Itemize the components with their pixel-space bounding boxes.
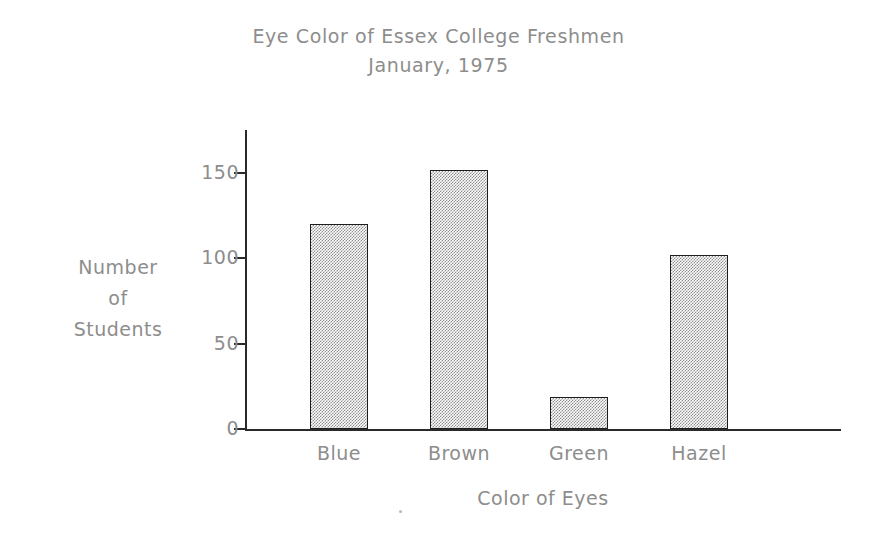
bar-hazel — [670, 255, 728, 429]
x-axis-line — [245, 429, 841, 431]
x-axis-label-blue: Blue — [317, 442, 361, 464]
x-axis-label-hazel: Hazel — [671, 442, 726, 464]
x-axis-label-green: Green — [549, 442, 609, 464]
chart-title-block: Eye Color of Essex College Freshmen Janu… — [0, 22, 877, 81]
y-axis-title-line-1: Number — [48, 252, 188, 283]
bar-green — [550, 397, 608, 429]
y-axis-tick-label: 0 — [226, 417, 239, 439]
y-axis-title-line-2: of — [48, 283, 188, 314]
y-axis-tick-label: 100 — [201, 246, 239, 268]
bar-blue — [310, 224, 368, 429]
y-axis-title: Number of Students — [48, 252, 188, 344]
bar-brown — [430, 170, 488, 429]
y-axis-line — [245, 130, 247, 430]
x-axis-title: Color of Eyes — [245, 487, 841, 509]
bar-chart: Eye Color of Essex College Freshmen Janu… — [0, 0, 877, 550]
chart-title: Eye Color of Essex College Freshmen — [0, 22, 877, 51]
scan-artifact-speck — [399, 510, 402, 513]
plot-area: 050100150 BlueBrownGreenHazel — [245, 130, 841, 430]
x-axis-label-brown: Brown — [428, 442, 490, 464]
y-axis-tick-label: 150 — [201, 161, 239, 183]
chart-subtitle: January, 1975 — [0, 51, 877, 80]
y-axis-title-line-3: Students — [48, 314, 188, 345]
y-axis-tick-label: 50 — [214, 332, 239, 354]
